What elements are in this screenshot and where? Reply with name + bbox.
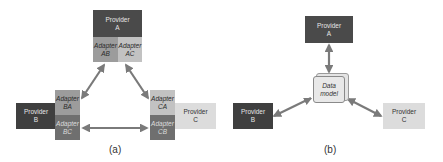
adapter-cb-box: Adapter CB <box>150 115 175 140</box>
provider-b-id: B <box>34 116 38 124</box>
adapter-ab-box: Adapter AB <box>93 37 118 62</box>
adapter-ab-id: AB <box>101 50 110 58</box>
adapter-cb-id: CB <box>158 128 167 136</box>
adapter-ab-label: Adapter <box>94 42 117 50</box>
adapter-ba-label: Adapter <box>56 95 79 103</box>
arrow-c-model <box>348 99 381 116</box>
provider-c-label-b: Provider <box>392 108 416 116</box>
adapter-ca-box: Adapter CA <box>150 90 175 115</box>
adapter-ba-id: BA <box>63 103 72 111</box>
provider-c-id: C <box>193 116 198 124</box>
provider-a-box-b: Provider A <box>305 16 353 43</box>
adapter-bc-label: Adapter <box>56 120 79 128</box>
provider-a-id: A <box>115 24 119 32</box>
provider-b-box-a: Provider B <box>16 103 56 129</box>
adapter-ac-box: Adapter AC <box>118 37 142 62</box>
provider-c-label: Provider <box>183 108 207 116</box>
provider-a-id-b: A <box>327 30 331 38</box>
provider-a-box: Provider A <box>93 10 142 37</box>
adapter-ac-label: Adapter <box>119 42 142 50</box>
adapter-bc-box: Adapter BC <box>55 115 80 140</box>
data-model-label-2: model <box>320 90 338 98</box>
arrow-ab-ba <box>82 65 104 98</box>
provider-a-label: Provider <box>105 16 129 24</box>
caption-a: (a) <box>109 144 121 155</box>
provider-c-box-b: Provider C <box>383 103 425 129</box>
provider-b-label: Provider <box>24 108 48 116</box>
provider-b-box-b: Provider B <box>233 103 273 129</box>
provider-a-label-b: Provider <box>317 22 341 30</box>
data-model-box: Data model <box>313 76 345 103</box>
provider-b-id-b: B <box>251 116 255 124</box>
caption-b: (b) <box>324 144 336 155</box>
adapter-ca-label: Adapter <box>151 95 174 103</box>
adapter-ba-box: Adapter BA <box>55 90 80 115</box>
adapter-bc-id: BC <box>63 128 72 136</box>
adapter-ca-id: CA <box>158 103 167 111</box>
provider-b-label-b: Provider <box>241 108 265 116</box>
provider-c-id-b: C <box>402 116 407 124</box>
arrow-b-model <box>274 98 311 116</box>
arrow-ac-ca <box>126 65 148 98</box>
data-model-label: Data <box>322 82 336 90</box>
adapter-cb-label: Adapter <box>151 120 174 128</box>
adapter-ac-id: AC <box>125 50 134 58</box>
provider-c-box-a: Provider C <box>175 103 216 129</box>
